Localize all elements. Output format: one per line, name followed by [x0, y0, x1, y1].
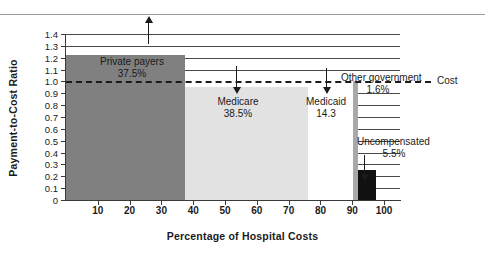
y-axis-tick-label: 0.5 [45, 135, 58, 146]
leader-arrow-medicare [236, 66, 237, 88]
annotation-private-payers-label: Private payers [100, 56, 164, 67]
annotation-uncompensated-label: Uncompensated [357, 136, 430, 147]
y-axis-tick-label: 0.2 [45, 171, 58, 182]
y-axis-tick [61, 46, 66, 47]
y-axis-tick-label: 1.0 [45, 76, 58, 87]
x-axis-tick-label: 30 [156, 205, 167, 216]
x-axis-tick-label: 90 [347, 205, 358, 216]
y-axis-tick [61, 200, 66, 201]
x-axis-tick-label: 20 [124, 205, 135, 216]
y-axis-tick-label: 0.9 [45, 88, 58, 99]
annotation-medicaid-label: Medicaid [306, 96, 346, 107]
leader-arrow-medicaid [326, 68, 327, 88]
annotation-medicare: Medicare 38.5% [186, 96, 290, 120]
annotation-medicare-share: 38.5% [186, 108, 290, 120]
x-axis-title: Percentage of Hospital Costs [0, 230, 485, 242]
x-axis-tick-label: 60 [251, 205, 262, 216]
annotation-private-payers: Private payers 37.5% [72, 56, 192, 80]
y-axis-tick-label: 1.1 [45, 64, 58, 75]
y-axis-tick-labels: 00.10.20.30.40.50.60.70.80.91.01.11.21.3… [36, 0, 58, 260]
annotation-medicaid-share: 14.3 [297, 108, 355, 120]
y-axis-tick-label: 1.4 [45, 29, 58, 40]
annotation-medicaid: Medicaid 14.3 [297, 96, 355, 120]
annotation-uncompensated: Uncompensated 5.5% [357, 136, 461, 160]
y-axis-tick-label: 0.7 [45, 112, 58, 123]
y-axis-tick-label: 0.1 [45, 183, 58, 194]
leader-arrow-uncompensated [364, 155, 365, 175]
x-axis-tick-label: 100 [376, 205, 393, 216]
annotation-other-government: Other government 1.6% [341, 72, 461, 96]
gridline [66, 34, 400, 35]
y-axis-tick-label: 0.4 [45, 147, 58, 158]
y-axis-title: Payment-to-Cost Ratio [7, 43, 19, 193]
y-axis-tick [61, 34, 66, 35]
y-axis-tick-label: 1.3 [45, 40, 58, 51]
x-axis-tick-label: 80 [315, 205, 326, 216]
y-axis-tick-label: 1.2 [45, 52, 58, 63]
chart-figure: 102030405060708090100 Cost Private payer… [0, 0, 485, 260]
x-axis-tick-label: 50 [219, 205, 230, 216]
gridline [66, 46, 400, 47]
y-axis-tick-label: 0 [53, 195, 58, 206]
y-axis-tick-label: 0.8 [45, 100, 58, 111]
y-axis-tick-label: 0.6 [45, 123, 58, 134]
x-axis-line [65, 200, 401, 201]
annotation-other-government-label: Other government [341, 72, 422, 83]
annotation-uncompensated-share: 5.5% [357, 148, 431, 160]
x-axis-tick-label: 70 [283, 205, 294, 216]
x-axis-tick-label: 10 [92, 205, 103, 216]
x-axis-tick-label: 40 [188, 205, 199, 216]
annotation-private-payers-share: 37.5% [72, 68, 192, 80]
annotation-other-government-share: 1.6% [341, 84, 415, 96]
figure-top-rule [0, 14, 485, 15]
annotation-medicare-label: Medicare [217, 96, 258, 107]
y-axis-tick-label: 0.3 [45, 159, 58, 170]
leader-arrow-private-payers [148, 22, 149, 44]
